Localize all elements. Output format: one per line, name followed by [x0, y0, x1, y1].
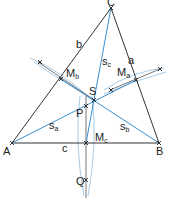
label-Mb: Mb	[66, 68, 79, 80]
label-side-a: a	[128, 55, 134, 66]
label-sb: sb	[120, 121, 129, 133]
label-Q: Q	[76, 176, 85, 187]
label-B: B	[156, 146, 163, 157]
label-P: P	[76, 108, 83, 119]
label-S: S	[89, 86, 96, 97]
label-Ma: Ma	[117, 67, 130, 79]
triangle	[12, 8, 159, 143]
label-A: A	[3, 146, 10, 157]
diagram: A B C b a c Mb Ma Mc sc sa sb S P Q	[0, 0, 172, 200]
label-side-c: c	[62, 143, 68, 154]
label-sa: sa	[49, 120, 58, 132]
label-side-b: b	[76, 39, 82, 50]
label-sc: sc	[102, 56, 111, 68]
triangle-diagram	[0, 0, 172, 200]
label-Mc: Mc	[95, 132, 108, 144]
label-C: C	[107, 0, 115, 8]
medians	[12, 8, 159, 143]
